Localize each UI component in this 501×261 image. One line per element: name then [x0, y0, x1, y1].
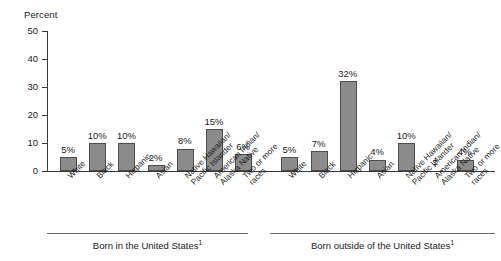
bar-value-label: 7%	[304, 139, 334, 149]
bar-value-label: 10%	[391, 131, 421, 141]
bar-slot[interactable]: 5%	[53, 31, 83, 171]
group-rule	[270, 233, 495, 234]
bar-chart: Percent 50403020100 5%10%10%2%8%15%6%5%7…	[0, 0, 501, 261]
bar-value-label: 15%	[199, 117, 229, 127]
bar-slot[interactable]: 10%	[391, 31, 421, 171]
y-tick-label-20: 20	[2, 110, 38, 120]
y-tick-label-50: 50	[2, 26, 38, 36]
caption-footnote-marker: 1	[450, 239, 454, 246]
group-caption: Born outside of the United States1	[270, 239, 495, 251]
y-axis-title: Percent	[24, 9, 57, 20]
y-tick-label-0: 0	[2, 166, 38, 176]
bar[interactable]	[340, 81, 357, 171]
bar-value-label: 10%	[111, 131, 141, 141]
bar-slot[interactable]: 10%	[82, 31, 112, 171]
bar-slot[interactable]: 8%	[170, 31, 200, 171]
y-tick-label-10: 10	[2, 138, 38, 148]
bar-value-label: 8%	[170, 136, 200, 146]
caption-footnote-marker: 1	[198, 239, 202, 246]
bar-value-label: 10%	[82, 131, 112, 141]
y-tick-label-40: 40	[2, 54, 38, 64]
bar-slot[interactable]: 10%	[111, 31, 141, 171]
bar-slot[interactable]: 32%	[333, 31, 363, 171]
y-tick-label-30: 30	[2, 82, 38, 92]
bar-slot[interactable]: 4%	[362, 31, 392, 171]
group-rule	[47, 233, 248, 234]
bar-slot[interactable]: 2%	[141, 31, 171, 171]
bar-value-label: 32%	[333, 69, 363, 79]
bar-slot[interactable]: 7%	[304, 31, 334, 171]
bar-value-label: 5%	[53, 145, 83, 155]
group-caption: Born in the United States1	[47, 239, 248, 251]
